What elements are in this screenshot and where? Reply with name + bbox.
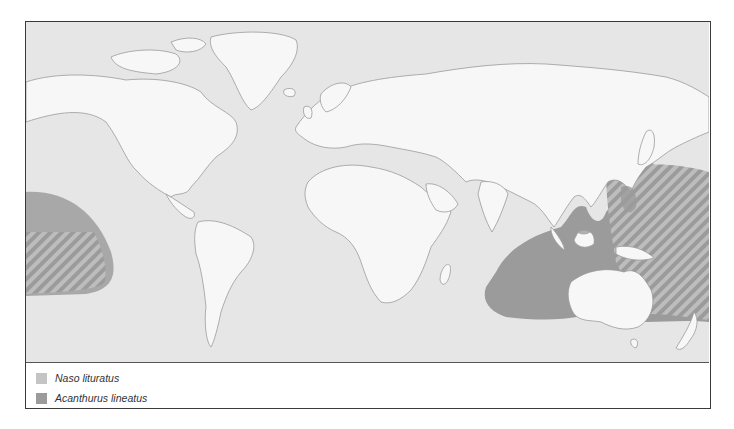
legend-label: Acanthurus lineatus	[55, 392, 147, 404]
world-map	[26, 22, 709, 363]
legend-swatch-naso-lituratus	[36, 373, 47, 384]
legend-item-naso-lituratus: Naso lituratus	[36, 369, 147, 387]
legend-label: Naso lituratus	[55, 372, 119, 384]
legend-swatch-acanthurus-lineatus	[36, 393, 47, 404]
legend: Naso lituratus Acanthurus lineatus	[36, 369, 147, 409]
legend-item-acanthurus-lineatus: Acanthurus lineatus	[36, 389, 147, 407]
map-figure: Naso lituratus Acanthurus lineatus	[25, 21, 711, 409]
